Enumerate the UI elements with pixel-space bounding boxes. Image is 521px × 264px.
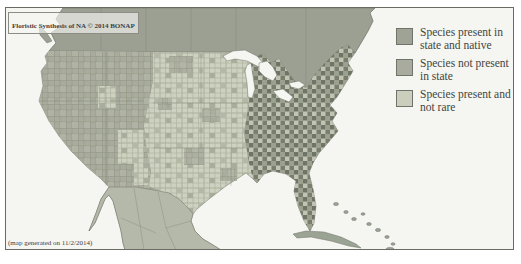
map-legend: Species present in state and native Spec… bbox=[396, 26, 512, 114]
legend-label-present-native: Species present in state and native bbox=[420, 26, 512, 52]
map-frame: Floristic Synthesis of NA © 2014 BONAP (… bbox=[5, 7, 514, 250]
legend-label-not-present: Species not present in state bbox=[420, 57, 512, 83]
legend-swatch-present-native bbox=[396, 28, 413, 45]
legend-item-present-native: Species present in state and native bbox=[396, 26, 512, 52]
legend-item-present-not-rare: Species present and not rare bbox=[396, 88, 512, 114]
map-title-box: Floristic Synthesis of NA © 2014 BONAP bbox=[8, 12, 139, 34]
bonap-distribution-figure: Floristic Synthesis of NA © 2014 BONAP (… bbox=[0, 0, 521, 264]
legend-item-not-present: Species not present in state bbox=[396, 57, 512, 83]
legend-swatch-not-present bbox=[396, 59, 413, 76]
map-generated-date: (map generated on 11/2/2014) bbox=[8, 239, 92, 247]
legend-swatch-present-not-rare bbox=[396, 90, 413, 107]
map-title: Floristic Synthesis of NA © 2014 BONAP bbox=[12, 22, 135, 30]
legend-label-present-not-rare: Species present and not rare bbox=[420, 88, 512, 114]
